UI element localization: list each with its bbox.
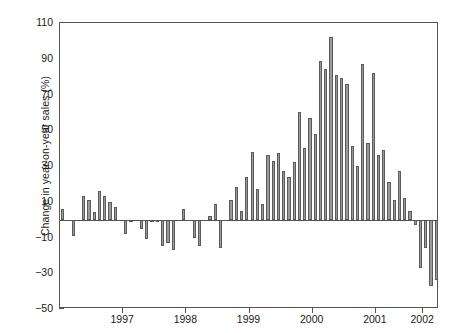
- bar: [298, 112, 301, 219]
- y-tick-label: 70: [41, 88, 53, 100]
- bar: [140, 220, 143, 229]
- bar: [366, 143, 369, 220]
- bar: [251, 152, 254, 220]
- y-tick-mark: [59, 308, 64, 309]
- y-tick-label: 10: [41, 195, 53, 207]
- bar: [161, 220, 164, 247]
- plot-area: [59, 22, 438, 308]
- bar: [172, 220, 175, 250]
- bar: [166, 220, 169, 243]
- bar: [198, 220, 201, 247]
- bar: [398, 171, 401, 219]
- bar: [103, 196, 106, 219]
- bar: [340, 78, 343, 219]
- bar: [93, 212, 96, 219]
- y-tick-label: 110: [36, 16, 53, 28]
- bar: [408, 211, 411, 220]
- bar: [429, 220, 432, 286]
- bar-chart: Change in year-on-year sales (%) 1109070…: [0, 0, 454, 333]
- bar: [324, 69, 327, 219]
- bar: [114, 207, 117, 220]
- x-tick-label: 2001: [363, 313, 386, 325]
- bar: [335, 75, 338, 220]
- bar: [261, 204, 264, 220]
- bar: [424, 220, 427, 249]
- bar: [245, 177, 248, 220]
- bar: [293, 162, 296, 219]
- bar: [382, 150, 385, 220]
- bar: [235, 187, 238, 219]
- bar: [356, 166, 359, 220]
- bar: [403, 198, 406, 219]
- bar: [308, 118, 311, 220]
- zero-baseline: [60, 220, 437, 221]
- bar: [272, 161, 275, 220]
- x-tick-label: 2000: [300, 313, 323, 325]
- bar: [108, 202, 111, 220]
- y-tick-label: −30: [35, 266, 53, 278]
- x-tick-label: 1999: [237, 313, 260, 325]
- bar: [61, 209, 64, 220]
- bar: [314, 134, 317, 220]
- bar: [219, 220, 222, 249]
- x-tick-label: 1997: [110, 313, 133, 325]
- bar: [319, 61, 322, 220]
- bar: [345, 84, 348, 220]
- y-tick-label: 50: [41, 123, 53, 135]
- bar: [240, 211, 243, 220]
- bar: [287, 177, 290, 220]
- bar: [361, 64, 364, 220]
- bar: [372, 73, 375, 220]
- y-tick-label: −10: [35, 231, 53, 243]
- bar: [256, 189, 259, 219]
- bars-layer: [60, 23, 437, 307]
- bar: [214, 204, 217, 220]
- bar: [377, 155, 380, 219]
- x-tick-label: 1998: [174, 313, 197, 325]
- bar: [393, 200, 396, 220]
- bar: [145, 220, 148, 240]
- bar: [182, 209, 185, 220]
- bar: [124, 220, 127, 234]
- bar: [229, 200, 232, 220]
- bar: [419, 220, 422, 268]
- bar: [329, 37, 332, 219]
- bar: [72, 220, 75, 236]
- bar: [351, 146, 354, 219]
- bar: [193, 220, 196, 238]
- bar: [98, 191, 101, 220]
- x-tick-label: 2002: [411, 313, 434, 325]
- bar: [387, 182, 390, 220]
- y-tick-label: −50: [35, 302, 53, 314]
- bar: [87, 200, 90, 220]
- y-tick-label: 90: [41, 52, 53, 64]
- bar: [266, 155, 269, 219]
- bar: [282, 171, 285, 219]
- bar: [82, 196, 85, 219]
- y-tick-label: 30: [41, 159, 53, 171]
- bar: [277, 153, 280, 219]
- bar: [303, 148, 306, 220]
- bar: [435, 220, 438, 281]
